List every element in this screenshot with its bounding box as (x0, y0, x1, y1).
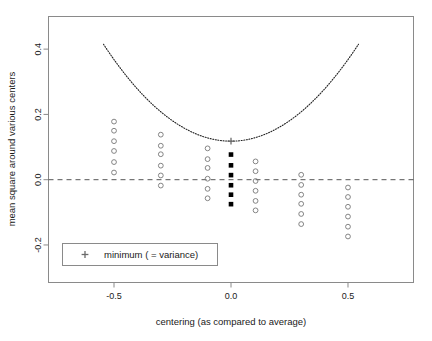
data-point-filled (229, 152, 234, 157)
scatter-plot: -0.50.00.5 -0.20.00.20.4 centering (as c… (0, 0, 432, 341)
y-tick-label: -0.2 (34, 237, 44, 253)
data-point-filled (229, 163, 234, 168)
y-axis-title: mean square around various centers (6, 71, 17, 226)
data-point-filled (229, 173, 234, 178)
chart-container: -0.50.00.5 -0.20.00.20.4 centering (as c… (0, 0, 432, 341)
chart-background (0, 0, 432, 341)
x-tick-label: 0.5 (342, 291, 355, 301)
data-point-filled (229, 192, 234, 197)
legend[interactable]: minimum ( = variance) (63, 244, 218, 266)
y-tick-label: 0.0 (34, 173, 44, 186)
data-point-filled (229, 202, 234, 207)
data-point-filled (229, 183, 234, 188)
y-tick-label: 0.4 (34, 43, 44, 56)
y-tick-label: 0.2 (34, 108, 44, 121)
legend-label: minimum ( = variance) (104, 249, 198, 260)
x-tick-label: -0.5 (106, 291, 122, 301)
x-axis-title: centering (as compared to average) (156, 316, 307, 327)
x-tick-label: 0.0 (225, 291, 238, 301)
